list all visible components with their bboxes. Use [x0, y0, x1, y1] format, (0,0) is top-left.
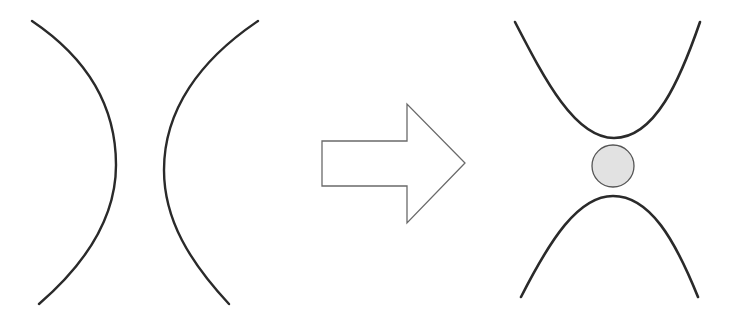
transition-arrow: [322, 104, 465, 223]
diagram-svg: [0, 0, 733, 313]
left-curve: [32, 21, 116, 304]
arrow-right-icon: [322, 104, 465, 223]
right-curve: [164, 21, 258, 304]
top-curve: [515, 22, 700, 138]
left-panel: [32, 21, 258, 304]
right-panel: [515, 22, 700, 297]
diagram-canvas: [0, 0, 733, 313]
particle-circle: [592, 145, 634, 187]
bottom-curve: [521, 196, 698, 297]
